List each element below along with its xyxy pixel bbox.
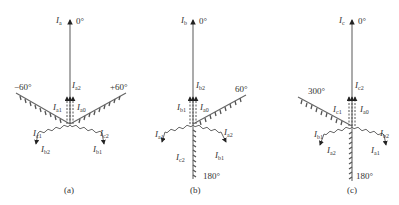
angle-label-180: 180°	[203, 171, 221, 181]
component-label-b1-lower: Ib1	[214, 150, 224, 161]
lower-left-component-arrow	[162, 125, 193, 142]
reference-phasor-label: Ic	[338, 15, 345, 26]
reference-phasor-label: Ib	[180, 15, 187, 26]
component-label-b2: Ib2	[40, 144, 50, 155]
component-label-a1: Ia1	[52, 102, 62, 113]
component-label-c2: Ic2	[99, 128, 109, 139]
panel-a: Ia 0° −60° +60° Ia2 Ia1 Ia0 Ic1 Ib2 Ic2 …	[14, 15, 128, 195]
component-label-b1: Ib1	[92, 144, 102, 155]
phasor-diagram-figure: Ia 0° −60° +60° Ia2 Ia1 Ia0 Ic1 Ib2 Ic2 …	[0, 0, 399, 205]
angle-label-60: 60°	[235, 84, 248, 94]
panel-c: Ic 0° 300° 180° Ic2 Ic1 Ia0 Ib1 Ia2 Ib2 …	[298, 15, 389, 195]
reference-angle-label: 0°	[199, 16, 208, 26]
reference-angle-label: 0°	[76, 16, 85, 26]
component-label-a2: Ia2	[326, 145, 336, 156]
component-label-b2: Ib2	[195, 80, 205, 91]
hatched-axis-180	[349, 126, 352, 181]
component-label-a0: Ia0	[359, 104, 369, 115]
panel-caption-a: (a)	[64, 185, 74, 195]
component-label-a0: Ia0	[76, 102, 86, 113]
angle-label-180: 180°	[356, 171, 374, 181]
component-label-c2: Ic2	[354, 80, 364, 91]
component-label-c2: Ic2	[175, 152, 185, 163]
lower-right-component-arrow	[70, 125, 104, 144]
panel-b: Ib 0° 60° 180° Ib2 Ib1 Ia0 Ia1 Ic2 Ia2 I…	[154, 15, 248, 195]
component-label-a0: Ia0	[199, 102, 209, 113]
reference-angle-label: 0°	[358, 16, 367, 26]
panel-caption-c: (c)	[347, 185, 357, 195]
component-label-a2: Ia2	[223, 127, 233, 138]
reference-phasor-label: Ia	[55, 15, 62, 26]
angle-label-minus60: −60°	[14, 82, 32, 92]
angle-label-plus60: +60°	[110, 82, 128, 92]
lower-left-component-arrow	[320, 127, 352, 145]
component-label-a1: Ia1	[370, 145, 380, 156]
component-label-b1: Ib1	[313, 129, 323, 140]
component-label-a1: Ia1	[154, 129, 164, 140]
component-label-a2: Ia2	[71, 80, 81, 91]
hatched-axis-minus60	[16, 93, 70, 124]
hatched-axis-300	[298, 97, 352, 126]
hatched-axis-180	[193, 124, 196, 179]
component-label-b1: Ib1	[176, 102, 186, 113]
lower-right-component-arrow	[193, 125, 226, 142]
panel-caption-b: (b)	[190, 185, 201, 195]
upward-component-arrows	[349, 97, 355, 126]
component-label-c1: Ic1	[332, 104, 342, 115]
component-label-b2: Ib2	[379, 128, 389, 139]
angle-label-300: 300°	[308, 86, 326, 96]
component-label-c1: Ic1	[32, 128, 42, 139]
